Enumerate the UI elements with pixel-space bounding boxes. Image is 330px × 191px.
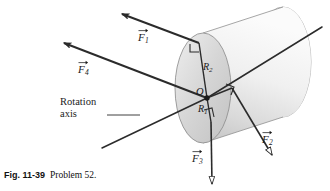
physics-figure: F1 F4 F2 F3 R2 O R1 Rotation axis <box>0 0 330 191</box>
force-subscript-F3: 3 <box>199 157 203 166</box>
force-symbol-F1: F <box>138 31 145 43</box>
figure-number: Fig. 11-39 <box>4 170 45 180</box>
force-vector-F3 <box>211 122 212 184</box>
force-label-F2: F2 <box>262 133 273 147</box>
rotation-axis-label-line1: Rotation <box>60 96 96 108</box>
force-label-F4: F4 <box>78 63 89 77</box>
figure-description: Problem 52. <box>50 170 96 180</box>
pivot-point-dot <box>204 95 209 100</box>
force-symbol-F3: F <box>192 152 199 164</box>
force-label-F1: F1 <box>138 31 149 45</box>
radius-inner-label: R1 <box>198 103 208 116</box>
radius-outer-subscript: 2 <box>209 66 213 74</box>
radius-inner-subscript: 1 <box>204 108 208 116</box>
force-subscript-F2: 2 <box>269 138 273 147</box>
force-label-F3: F3 <box>192 152 203 166</box>
figure-caption: Fig. 11-39Problem 52. <box>4 170 96 180</box>
force-subscript-F1: 1 <box>145 36 149 45</box>
radius-outer-label: R2 <box>203 61 213 74</box>
pivot-point-label: O <box>196 86 204 98</box>
force-symbol-F4: F <box>78 63 85 75</box>
rotation-axis-label-line2: axis <box>60 108 77 120</box>
figure-drawing-canvas <box>0 0 330 191</box>
force-subscript-F4: 4 <box>85 68 89 77</box>
force-symbol-F2: F <box>262 133 269 145</box>
force-vector-F1 <box>122 14 199 43</box>
